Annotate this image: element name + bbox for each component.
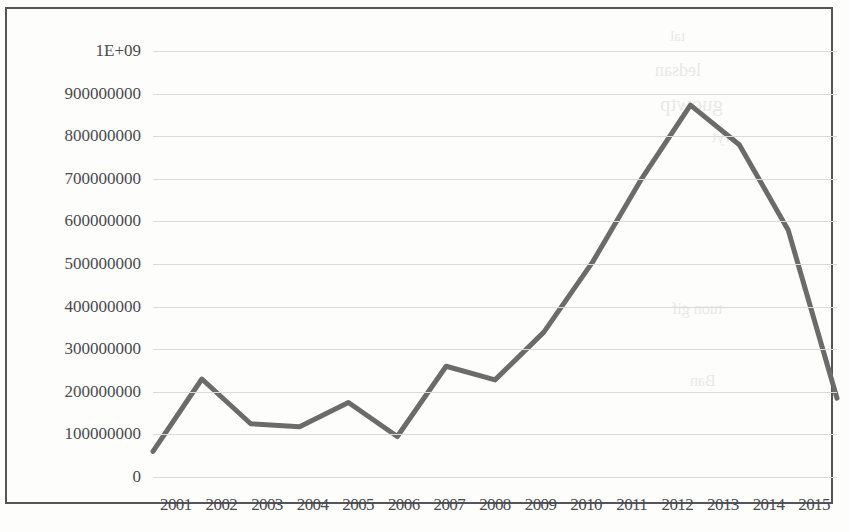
plot-area <box>153 51 837 477</box>
x-axis-tick-label: 2009 <box>518 495 564 525</box>
x-axis-tick-label: 2002 <box>199 495 245 525</box>
y-axis-tick-label: 100000000 <box>65 424 142 444</box>
x-axis-tick-label: 2007 <box>427 495 473 525</box>
x-axis-tick-label: 2003 <box>244 495 290 525</box>
gridline <box>153 179 837 180</box>
gridline <box>153 94 837 95</box>
y-axis-tick-label: 800000000 <box>65 126 142 146</box>
x-axis-tick-label: 2004 <box>290 495 336 525</box>
y-axis-tick-label: 500000000 <box>65 254 142 274</box>
gridline <box>153 221 837 222</box>
gridline <box>153 51 837 52</box>
gridline <box>153 264 837 265</box>
y-axis-tick-label: 200000000 <box>65 382 142 402</box>
y-axis: 1E+0990000000080000000070000000060000000… <box>7 51 141 477</box>
x-axis-tick-label: 2005 <box>335 495 381 525</box>
gridline <box>153 349 837 350</box>
y-axis-tick-label: 700000000 <box>65 169 142 189</box>
x-axis-tick-label: 2008 <box>472 495 518 525</box>
scanned-page-background: tal ledsan guowtp ryt tuon gif Ban 1E+09… <box>0 0 850 532</box>
y-axis-tick-label: 600000000 <box>65 211 142 231</box>
gridline <box>153 477 837 478</box>
x-axis-tick-label: 2001 <box>153 495 199 525</box>
y-axis-tick-label: 300000000 <box>65 339 142 359</box>
x-axis-tick-label: 2014 <box>746 495 792 525</box>
gridline <box>153 136 837 137</box>
chart-frame: 1E+0990000000080000000070000000060000000… <box>5 7 833 504</box>
gridline <box>153 392 837 393</box>
x-axis-tick-label: 2006 <box>381 495 427 525</box>
x-axis-tick-label: 2010 <box>563 495 609 525</box>
y-axis-tick-label: 1E+09 <box>96 41 141 61</box>
x-axis-tick-label: 2013 <box>700 495 746 525</box>
gridline <box>153 307 837 308</box>
y-axis-tick-label: 900000000 <box>65 84 142 104</box>
gridline <box>153 434 837 435</box>
x-axis: 2001200220032004200520062007200820092010… <box>153 495 837 525</box>
x-axis-tick-label: 2011 <box>609 495 655 525</box>
y-axis-tick-label: 400000000 <box>65 297 142 317</box>
y-axis-tick-label: 0 <box>133 467 142 487</box>
x-axis-tick-label: 2015 <box>791 495 837 525</box>
x-axis-tick-label: 2012 <box>655 495 701 525</box>
